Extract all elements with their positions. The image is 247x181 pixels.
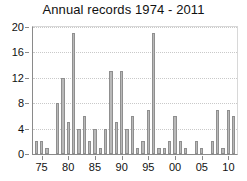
x-tick-label: 85: [89, 162, 101, 173]
bar: [152, 33, 155, 154]
x-tick-mark: [202, 156, 203, 160]
bar: [195, 141, 198, 154]
bar: [88, 141, 91, 154]
annual-records-bar-chart: Annual records 1974 - 2011 048121620 758…: [0, 0, 247, 181]
y-tick-label: 20: [12, 22, 24, 33]
bar: [227, 110, 230, 154]
x-tick-mark: [175, 156, 176, 160]
bar: [200, 148, 203, 154]
y-tick-mark: [25, 52, 29, 53]
bar: [216, 110, 219, 154]
bar: [147, 110, 150, 154]
bar: [83, 116, 86, 154]
bar: [40, 141, 43, 154]
x-tick-mark: [68, 156, 69, 160]
x-tick-label: 05: [196, 162, 208, 173]
x-tick-label: 00: [169, 162, 181, 173]
bar: [77, 129, 80, 154]
x-tick-mark: [228, 156, 229, 160]
bar: [99, 148, 102, 154]
x-tick-mark: [95, 156, 96, 160]
bar: [93, 129, 96, 154]
bar: [141, 141, 144, 154]
y-tick-label: 4: [18, 123, 24, 134]
bar: [45, 148, 48, 154]
bar: [125, 129, 128, 154]
bar: [56, 103, 59, 154]
bar: [67, 122, 70, 154]
bar: [115, 122, 118, 154]
bar: [104, 129, 107, 154]
y-tick-mark: [25, 27, 29, 28]
x-tick-label: 80: [62, 162, 74, 173]
bar: [72, 33, 75, 154]
x-tick-mark: [42, 156, 43, 160]
bar: [168, 141, 171, 154]
x-tick-mark: [148, 156, 149, 160]
bar: [61, 78, 64, 154]
x-axis: 7580859095000510: [32, 156, 239, 180]
bar: [157, 148, 160, 154]
bar: [221, 148, 224, 154]
bar: [131, 116, 134, 154]
bar: [184, 148, 187, 154]
bar: [211, 141, 214, 154]
y-tick-label: 8: [18, 98, 24, 109]
bar: [232, 116, 235, 154]
x-tick-mark: [122, 156, 123, 160]
x-tick-label: 10: [222, 162, 234, 173]
bar: [136, 148, 139, 154]
y-tick-mark: [25, 154, 29, 155]
y-tick-label: 12: [12, 72, 24, 83]
x-tick-label: 75: [35, 162, 47, 173]
bar: [179, 141, 182, 154]
bar: [35, 141, 38, 154]
chart-title: Annual records 1974 - 2011: [0, 2, 247, 17]
y-tick-mark: [25, 78, 29, 79]
y-tick-label: 16: [12, 47, 24, 58]
plot-area: [32, 26, 238, 155]
y-tick-mark: [25, 129, 29, 130]
bar: [109, 71, 112, 154]
y-tick-mark: [25, 103, 29, 104]
bar: [163, 148, 166, 154]
y-tick-label: 0: [18, 149, 24, 160]
bar: [173, 116, 176, 154]
bar: [120, 71, 123, 154]
y-axis: 048121620: [0, 26, 29, 156]
bar-series: [33, 27, 237, 154]
x-tick-label: 95: [142, 162, 154, 173]
x-tick-label: 90: [116, 162, 128, 173]
